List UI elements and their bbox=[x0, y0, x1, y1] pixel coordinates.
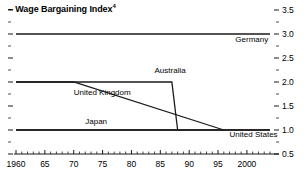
y-tick-label: 1.5 bbox=[282, 101, 294, 111]
x-tick-label: 95 bbox=[213, 159, 223, 169]
x-tick-label: 85 bbox=[156, 159, 166, 169]
y-tick-label: 0.5 bbox=[282, 149, 294, 159]
x-tick-label: 90 bbox=[184, 159, 194, 169]
x-tick-label: 1960 bbox=[7, 159, 26, 169]
x-tick-label: 2000 bbox=[237, 159, 256, 169]
x-axis-tick-labels: 1960657075808590952000 bbox=[7, 159, 257, 169]
y-axis-tick-labels: 3.53.02.52.01.51.00.5 bbox=[282, 5, 294, 159]
y-tick-label: 3.5 bbox=[282, 5, 294, 15]
series-lines-group bbox=[16, 34, 270, 130]
y-tick-label: 1.0 bbox=[282, 125, 294, 135]
series-label-united-kingdom: United Kingdom bbox=[74, 88, 131, 97]
x-tick-label: 65 bbox=[40, 159, 50, 169]
series-label-united-states: United States bbox=[230, 130, 278, 139]
series-label-japan: Japan bbox=[85, 117, 107, 126]
series-label-australia: Australia bbox=[155, 66, 187, 75]
x-axis bbox=[14, 150, 279, 154]
y-tick-label: 2.5 bbox=[282, 53, 294, 63]
series-label-germany: Germany bbox=[235, 35, 268, 44]
y-tick-label: 3.0 bbox=[282, 29, 294, 39]
chart-plot-area: 3.53.02.52.01.51.00.5 196065707580859095… bbox=[0, 0, 307, 178]
wage-bargaining-index-chart: – Wage Bargaining Index4 3.53.02.52.01.5… bbox=[0, 0, 307, 178]
x-tick-label: 75 bbox=[98, 159, 108, 169]
x-tick-label: 80 bbox=[127, 159, 137, 169]
x-tick-label: 70 bbox=[69, 159, 79, 169]
series-labels-group: GermanyAustraliaUnited KingdomJapanUnite… bbox=[74, 35, 278, 139]
y-tick-label: 2.0 bbox=[282, 77, 294, 87]
